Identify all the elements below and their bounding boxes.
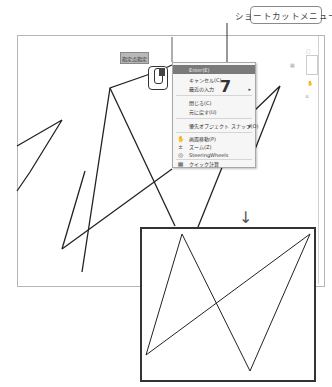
result-inset-lines (0, 0, 332, 387)
